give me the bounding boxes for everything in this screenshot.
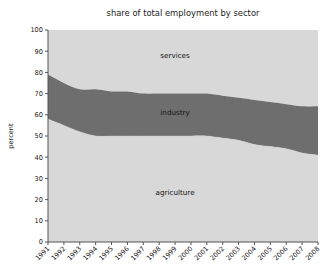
- stacked-area-bands: [48, 30, 318, 242]
- y-tick-label: 40: [35, 154, 43, 162]
- x-tick-label: 1999: [161, 245, 179, 263]
- x-tick-label: 1998: [145, 245, 163, 263]
- y-tick-label: 90: [35, 48, 43, 56]
- chart-title: share of total employment by sector: [107, 8, 260, 18]
- area-label-services: services: [160, 51, 190, 60]
- area-label-industry: industry: [160, 108, 190, 117]
- x-tick-label: 1996: [113, 245, 131, 263]
- y-axis-title: percent: [7, 123, 15, 149]
- y-tick-label: 50: [35, 132, 43, 140]
- x-tick-label: 1994: [82, 245, 100, 263]
- employment-share-area-chart: share of total employment by sector serv…: [0, 0, 329, 278]
- y-axis-ticks: 0102030405060708090100: [30, 26, 48, 246]
- x-tick-label: 1997: [129, 245, 147, 263]
- x-tick-label: 2008: [304, 245, 322, 263]
- y-tick-label: 80: [35, 69, 43, 77]
- x-tick-label: 1991: [34, 245, 52, 263]
- y-tick-label: 70: [35, 90, 43, 98]
- y-tick-label: 100: [30, 26, 43, 34]
- x-tick-label: 1992: [50, 245, 68, 263]
- x-tick-label: 2005: [256, 245, 274, 263]
- x-tick-label: 2007: [288, 245, 306, 263]
- x-tick-label: 2006: [272, 245, 290, 263]
- area-label-agriculture: agriculture: [156, 188, 196, 197]
- y-tick-label: 10: [35, 217, 43, 225]
- x-tick-label: 1993: [66, 245, 84, 263]
- y-tick-label: 20: [35, 196, 43, 204]
- chart-container: share of total employment by sector serv…: [0, 0, 329, 278]
- x-tick-label: 2002: [209, 245, 227, 263]
- y-tick-label: 60: [35, 111, 43, 119]
- x-tick-label: 2000: [177, 245, 195, 263]
- x-tick-label: 2003: [224, 245, 242, 263]
- y-tick-label: 30: [35, 175, 43, 183]
- x-tick-label: 2004: [240, 245, 258, 263]
- y-tick-label: 0: [39, 238, 43, 246]
- x-axis: 1991199219931994199519961997199819992000…: [34, 242, 322, 262]
- x-tick-label: 1995: [97, 245, 115, 263]
- x-axis-ticks: 1991199219931994199519961997199819992000…: [34, 242, 322, 262]
- y-axis: 0102030405060708090100 percent: [7, 26, 48, 246]
- x-tick-label: 2001: [193, 245, 211, 263]
